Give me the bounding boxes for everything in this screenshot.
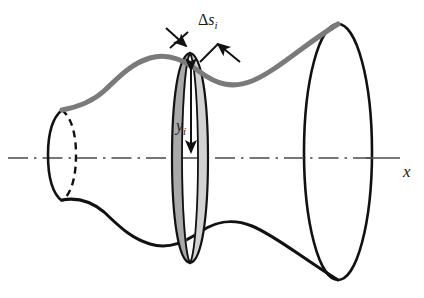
x-axis-label: x <box>402 162 411 181</box>
right-opening-ellipse <box>304 24 372 280</box>
figure-canvas: yi Δsi x <box>0 0 424 298</box>
surface-of-revolution-figure: yi Δsi x <box>0 0 424 298</box>
